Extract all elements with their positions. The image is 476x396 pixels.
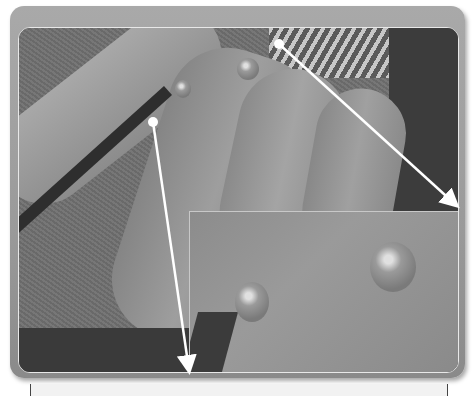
zoom-inset — [189, 211, 459, 373]
main-photo — [18, 27, 459, 373]
skin-papule-small — [175, 80, 191, 98]
inset-dark-region — [189, 312, 238, 372]
figure-caption — [30, 384, 448, 396]
inset-papule-small — [235, 282, 269, 322]
inset-papule-large — [370, 242, 416, 292]
dark-region-bottom — [19, 328, 194, 373]
skin-papule-large — [237, 58, 259, 80]
